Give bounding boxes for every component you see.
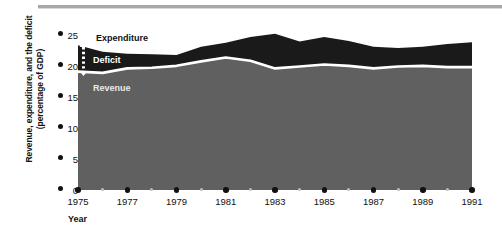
x-tick-label: 1989 [403, 196, 443, 207]
y-tick-dot [58, 155, 63, 160]
x-tick-label: 1975 [58, 196, 98, 207]
x-minor-tick [101, 188, 104, 191]
x-minor-tick [150, 188, 153, 191]
x-tick-dot [322, 187, 328, 193]
x-axis-title: Year [68, 214, 87, 224]
y-tick-label: 15 [32, 93, 78, 102]
y-tick-dot [58, 62, 63, 67]
plot-area [78, 30, 472, 190]
x-tick-label: 1981 [206, 196, 246, 207]
x-tick-dot [75, 187, 81, 193]
top-rule-shadow [38, 8, 502, 9]
y-tick-label: 0 [32, 186, 78, 195]
y-tick-dot [58, 124, 63, 129]
x-tick-label: 1987 [354, 196, 394, 207]
x-minor-tick [446, 188, 449, 191]
y-tick-label: 10 [32, 124, 78, 133]
x-tick-dot [469, 187, 475, 193]
x-tick-dot [272, 187, 278, 193]
x-tick-dot [125, 187, 131, 193]
deficit-gap-arrow [79, 42, 88, 76]
x-tick-dot [371, 187, 377, 193]
x-tick-dot [174, 187, 180, 193]
y-tick-label: 5 [32, 155, 78, 164]
x-tick-label: 1979 [157, 196, 197, 207]
x-tick-dot [223, 187, 229, 193]
x-minor-tick [397, 188, 400, 191]
chart-figure: Revenue, expenditure, and the deficit (p… [0, 0, 502, 239]
x-tick-label: 1991 [452, 196, 492, 207]
y-tick-label: 25 [32, 31, 78, 40]
x-minor-tick [347, 188, 350, 191]
x-minor-tick [200, 188, 203, 191]
x-tick-label: 1985 [304, 196, 344, 207]
y-tick-dot [58, 186, 63, 191]
series-label-deficit: Deficit [93, 55, 121, 65]
y-tick-label: 20 [32, 62, 78, 71]
x-minor-tick [249, 188, 252, 191]
x-tick-label: 1983 [255, 196, 295, 207]
x-minor-tick [298, 188, 301, 191]
area-chart-svg [78, 30, 472, 190]
series-label-revenue: Revenue [93, 83, 131, 93]
series-label-expenditure: Expenditure [96, 33, 148, 43]
x-tick-dot [420, 187, 426, 193]
y-tick-dot [58, 31, 63, 36]
y-tick-dot [58, 93, 63, 98]
x-tick-label: 1977 [107, 196, 147, 207]
